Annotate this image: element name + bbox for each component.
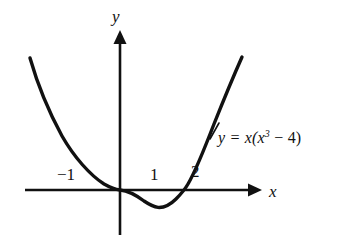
function-plot-figure (0, 0, 348, 241)
x-tick-label-one: 1 (150, 166, 159, 183)
equation-suffix: − 4) (270, 129, 301, 146)
y-axis-label: y (112, 8, 120, 25)
x-axis-label: x (269, 183, 277, 200)
curve-equation-annotation: y = x(x3 − 4) (218, 130, 301, 146)
x-tick-label-negative-one: −1 (57, 166, 75, 183)
equation-prefix: y = x(x (218, 129, 265, 146)
x-tick-label-two: 2 (191, 163, 200, 180)
